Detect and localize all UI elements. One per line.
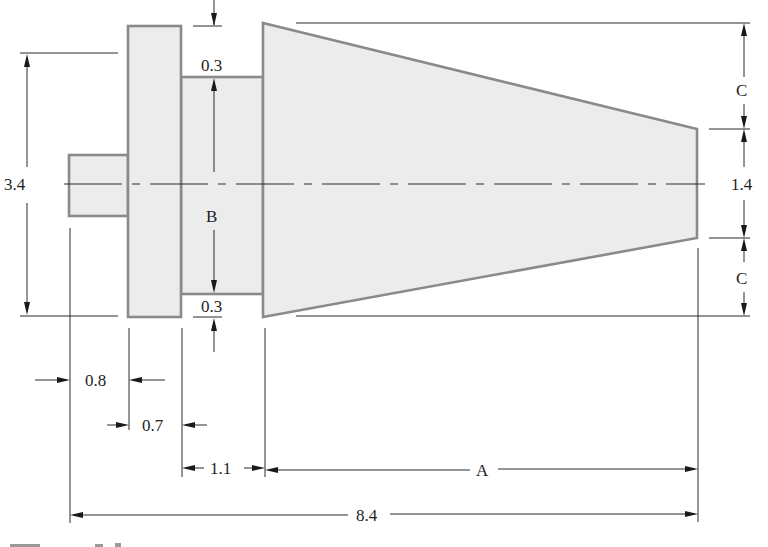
dim-flange-length: 0.7 [107, 416, 207, 435]
tapered-cone [263, 23, 697, 317]
small-shaft [69, 155, 128, 216]
label-8-4: 8.4 [356, 506, 378, 525]
label-C-top: C [736, 81, 747, 100]
label-cone-end-diameter: 1.4 [731, 175, 753, 194]
dim-right-stack: C 1.4 C [731, 23, 753, 316]
dim-overall-length: 8.4 [70, 506, 698, 525]
dim-bottom-step: 0.3 [201, 297, 222, 352]
label-0-8: 0.8 [85, 371, 106, 390]
dim-overall-height: 3.4 [4, 54, 30, 315]
label-top-step: 0.3 [201, 56, 222, 75]
label-1-1: 1.1 [210, 459, 231, 478]
flange [128, 26, 181, 317]
label-C-bottom: C [736, 269, 747, 288]
shaft-drawing: 3.4 0.3 B 0.3 C 1.4 C [0, 0, 768, 547]
middle-section [181, 77, 263, 294]
dim-middle-length: 1.1 [182, 459, 265, 478]
figure-caption-clipped [10, 543, 121, 547]
label-overall-height: 3.4 [4, 175, 26, 194]
label-0-7: 0.7 [142, 416, 164, 435]
label-bottom-step: 0.3 [201, 297, 222, 316]
dim-small-shaft-length: 0.8 [35, 371, 165, 390]
label-A: A [476, 461, 489, 480]
label-B: B [206, 207, 217, 226]
part-outline [69, 23, 697, 317]
dim-cone-length: A [265, 461, 698, 480]
